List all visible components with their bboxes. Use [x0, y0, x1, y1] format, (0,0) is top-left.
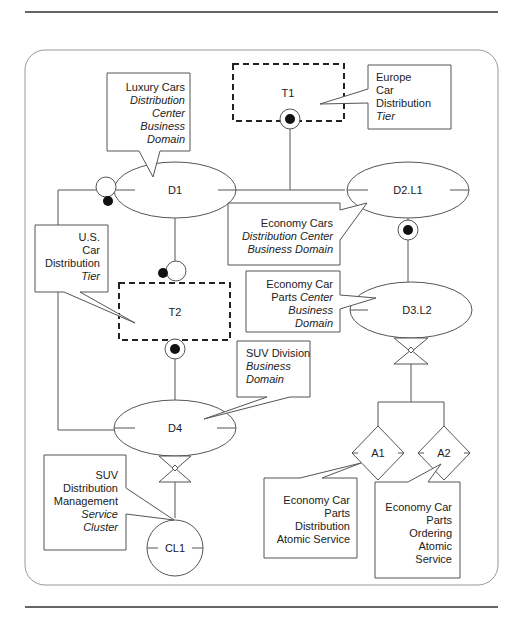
svg-text:Economy Cars: Economy Cars	[261, 217, 334, 229]
node-d4-label: D4	[168, 422, 182, 434]
svg-text:Parts: Parts	[324, 507, 350, 519]
node-cl1-label: CL1	[165, 542, 185, 554]
svg-text:Center: Center	[152, 107, 186, 119]
node-d4[interactable]: D4	[114, 400, 236, 456]
svg-text:Parts Center: Parts Center	[271, 291, 334, 303]
node-d3l2[interactable]: D3.L2	[350, 282, 472, 338]
svg-text:Distribution: Distribution	[45, 257, 100, 269]
svg-text:Luxury Cars: Luxury Cars	[126, 81, 186, 93]
svg-text:Europe: Europe	[376, 71, 411, 83]
svg-text:Economy Car: Economy Car	[385, 501, 452, 513]
svg-text:Distribution Center: Distribution Center	[242, 230, 334, 242]
node-d1-label: D1	[168, 184, 182, 196]
svg-text:Parts: Parts	[426, 514, 452, 526]
svg-text:Domain: Domain	[147, 133, 185, 145]
bullseye-icon	[165, 339, 185, 359]
svg-text:Domain: Domain	[295, 317, 333, 329]
svg-text:Tier: Tier	[376, 110, 396, 122]
svg-text:Distribution: Distribution	[295, 520, 350, 532]
svg-text:Domain: Domain	[246, 373, 284, 385]
node-t1-label: T1	[282, 87, 295, 99]
diagram-canvas: D1 D2.L1 D3.L2 D4 T1 T2	[0, 0, 523, 619]
svg-text:Distribution: Distribution	[63, 482, 118, 494]
node-t2-label: T2	[169, 306, 182, 318]
svg-text:Atomic Service: Atomic Service	[277, 533, 350, 545]
svg-text:Service: Service	[415, 553, 452, 565]
svg-text:Distribution: Distribution	[130, 94, 185, 106]
svg-text:Cluster: Cluster	[83, 521, 119, 533]
svg-text:Economy Car: Economy Car	[266, 278, 333, 290]
svg-text:SUV Division: SUV Division	[246, 347, 310, 359]
svg-text:U.S.: U.S.	[79, 231, 100, 243]
node-d2l1[interactable]: D2.L1	[347, 162, 469, 218]
node-d1[interactable]: D1	[114, 162, 236, 218]
node-d3l2-label: D3.L2	[402, 304, 431, 316]
svg-text:Business: Business	[288, 304, 333, 316]
svg-text:Service: Service	[81, 508, 118, 520]
svg-text:Business Domain: Business Domain	[247, 243, 333, 255]
svg-text:Economy Car: Economy Car	[283, 494, 350, 506]
svg-text:SUV: SUV	[95, 469, 118, 481]
node-a1-label: A1	[371, 447, 384, 459]
node-t2[interactable]: T2	[119, 283, 230, 340]
node-a2-label: A2	[437, 447, 450, 459]
node-d2l1-label: D2.L1	[393, 184, 422, 196]
svg-text:Distribution: Distribution	[376, 97, 431, 109]
svg-text:Tier: Tier	[81, 270, 101, 282]
svg-text:Management: Management	[54, 495, 118, 507]
node-cl1[interactable]: CL1	[147, 520, 203, 576]
svg-text:Car: Car	[376, 84, 394, 96]
bullseye-icon	[280, 109, 300, 129]
svg-text:Business: Business	[246, 360, 291, 372]
svg-text:Business: Business	[140, 120, 185, 132]
svg-text:Car: Car	[82, 244, 100, 256]
bullseye-icon	[398, 220, 418, 240]
svg-text:Ordering: Ordering	[409, 527, 452, 539]
svg-text:Atomic: Atomic	[418, 540, 452, 552]
